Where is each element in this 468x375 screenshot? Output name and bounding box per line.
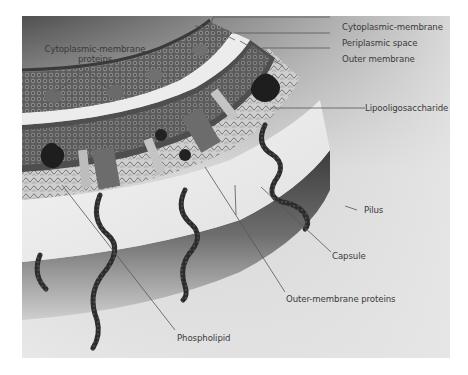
envelope-diagram: Cytoplasmic-membrane proteins Cytoplasmi…	[0, 0, 468, 375]
label-lipooligosaccharide: Lipooligosaccharide	[365, 103, 448, 113]
label-pilus: Pilus	[364, 205, 383, 215]
label-line-1: Cytoplasmic-membrane	[45, 44, 146, 54]
label-line-2: proteins	[78, 54, 112, 64]
label-outer-membrane-proteins: Outer-membrane proteins	[286, 294, 395, 304]
cyto-protein-2	[106, 85, 124, 99]
label-periplasmic-space: Periplasmic space	[342, 38, 417, 48]
label-outer-membrane: Outer membrane	[342, 54, 415, 64]
cyto-protein-1	[44, 89, 62, 103]
label-phospholipid: Phospholipid	[177, 333, 230, 343]
label-cytoplasmic-membrane: Cytoplasmic-membrane	[342, 22, 443, 32]
label-capsule: Capsule	[332, 251, 366, 261]
label-cytoplasmic-membrane-proteins: Cytoplasmic-membrane proteins	[40, 44, 150, 64]
